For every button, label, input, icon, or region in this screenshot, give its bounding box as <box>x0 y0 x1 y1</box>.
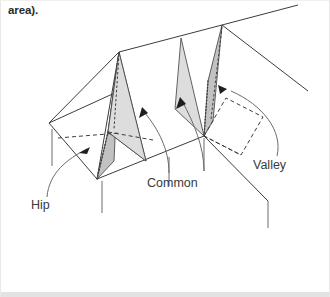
valley-rafter-shade <box>204 25 222 136</box>
left-gable-eave <box>49 123 97 179</box>
hidden-plan-lines-group <box>58 98 263 155</box>
valley-common-shade <box>175 38 204 136</box>
hip-leader-line <box>47 149 87 197</box>
label-common: Common <box>147 176 198 190</box>
common-arrowhead <box>139 107 148 118</box>
hip-arrowhead <box>79 147 90 154</box>
valley-arrowhead <box>218 85 227 94</box>
ridge-line <box>119 5 298 52</box>
footer-rule <box>1 292 330 297</box>
right-hip-line <box>222 25 308 91</box>
common-leader-line <box>145 113 169 173</box>
valley-leader-line <box>231 91 278 156</box>
roof-framing-diagram: Hip Common Valley <box>1 1 330 297</box>
left-rear-eave <box>49 91 119 123</box>
label-hip: Hip <box>31 198 50 212</box>
label-valley: Valley <box>253 158 287 172</box>
figure-page: area). <box>0 0 330 297</box>
